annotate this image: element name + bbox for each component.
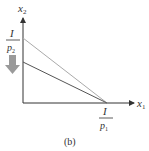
y-axis-label: x2 (17, 2, 27, 16)
down-arrow-icon (5, 55, 20, 74)
svg-text:p1: p1 (99, 120, 108, 132)
y-intercept-label: I p2 (6, 27, 20, 54)
budget-line-diagram: x2 x1 I p2 I p1 (b) (0, 0, 149, 151)
x-axis-label: x1 (136, 97, 146, 111)
original-budget-line (23, 38, 107, 103)
figure-caption: (b) (64, 136, 76, 148)
svg-text:I: I (102, 105, 108, 117)
svg-text:I: I (9, 27, 15, 39)
new-budget-line (23, 62, 107, 103)
svg-text:p2: p2 (6, 42, 15, 54)
x-intercept-label: I p1 (99, 105, 113, 132)
